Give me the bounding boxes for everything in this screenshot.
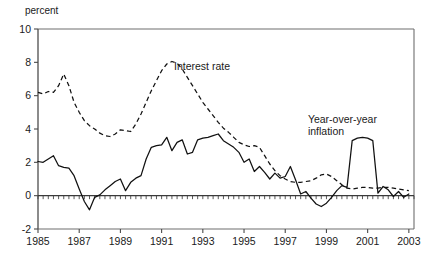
chart-container: 1086420-2 198519871989199119931995199719… [0,0,429,258]
x-tick-label: 1989 [109,235,133,247]
x-axis-ticks [38,229,409,233]
x-tick-label: 1985 [26,235,50,247]
y-tick-label: 2 [25,156,31,168]
time-series-chart: 1086420-2 198519871989199119931995199719… [0,0,429,258]
x-tick-label: 1987 [68,235,92,247]
x-tick-label: 1997 [274,235,298,247]
interest-rate-label: Interest rate [174,60,230,72]
x-tick-label: 2003 [397,235,421,247]
x-tick-label: 1993 [191,235,215,247]
x-tick-label: 2001 [356,235,380,247]
y-tick-label: 8 [25,56,31,68]
series-line-interest-rate [38,62,409,191]
y-tick-label: 4 [25,123,31,135]
series-annotations: Interest rateYear-over-yearinflation [174,60,377,137]
x-tick-label: 1999 [315,235,339,247]
x-tick-label: 1995 [232,235,256,247]
x-axis-tick-labels: 1985198719891991199319951997199920012003 [26,235,420,247]
y-tick-label: 0 [25,189,31,201]
y-axis-label: percent [25,5,59,16]
y-tick-label: 6 [25,89,31,101]
inflation-label-line2: inflation [308,125,344,137]
inflation-label-line1: Year-over-year [308,113,378,125]
y-axis-tick-labels: 1086420-2 [19,23,31,235]
x-tick-label: 1991 [150,235,174,247]
y-tick-label: -2 [22,223,31,235]
y-tick-label: 10 [19,23,31,35]
